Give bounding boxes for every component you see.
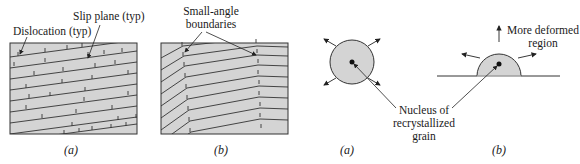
panel-a-slip-planes <box>10 25 137 137</box>
more-deformed-label-1: More deformed <box>504 24 580 37</box>
small-angle-label-2: boundaries <box>176 18 246 31</box>
caption-right-a: (a) <box>340 143 354 158</box>
nucleus-label-2: recrystallized <box>384 117 464 130</box>
caption-left-a: (a) <box>64 143 78 158</box>
nucleus-label-3: grain <box>384 130 464 143</box>
small-angle-label-1: Small-angle <box>176 5 246 18</box>
nucleus-leader-b <box>452 66 497 108</box>
nucleus-circle-diagram <box>324 39 396 108</box>
slip-plane-label: Slip plane (typ) <box>73 10 145 23</box>
dislocation-label: Dislocation (typ) <box>13 25 91 38</box>
panel-b-small-angle-boundaries <box>161 32 288 146</box>
nucleus-label-1: Nucleus of <box>384 104 464 117</box>
nucleus-leader-a <box>354 64 396 108</box>
more-deformed-label-2: region <box>504 37 580 50</box>
caption-left-b: (b) <box>214 143 228 158</box>
caption-right-b: (b) <box>492 143 506 158</box>
